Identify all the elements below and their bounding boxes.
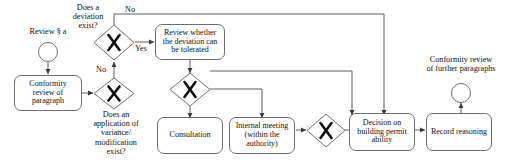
flow-label-no-top: No [125,6,135,14]
task-label: Decision on building permit ability [357,119,407,146]
task-label: Review whether the deviation can be tole… [163,29,218,56]
task-decision-on-building-permit-ability[interactable]: Decision on building permit ability [349,113,415,151]
flow-label-yes: Yes [135,45,147,53]
task-label: Conformity review of paragraph [29,80,66,107]
task-record-reasoning[interactable]: Record reasoning [426,113,492,151]
gateway-split-consultation-meeting[interactable] [169,72,211,107]
gateway-application-variance-exists-label: Does an application of variance/ modific… [85,110,147,156]
task-label: Record reasoning [431,128,487,137]
task-consultation[interactable]: Consultation [157,117,223,154]
task-review-whether-deviation-tolerated[interactable]: Review whether the deviation can be tole… [155,24,225,60]
gateway-deviation-exists-label: Does a deviation exist? [62,3,114,31]
task-label: Internal meeting (within the authority) [236,122,289,149]
start-event[interactable] [38,42,58,62]
end-event[interactable] [451,83,471,103]
task-conformity-review-of-paragraph[interactable]: Conformity review of paragraph [14,75,82,111]
task-internal-meeting[interactable]: Internal meeting (within the authority) [229,117,295,154]
end-event-label: Conformity review of further paragraphs [409,55,512,73]
gateway-application-variance-exists[interactable] [93,77,135,110]
flowchart-canvas: Review § a Conformity review of paragrap… [0,0,512,167]
task-label: Consultation [170,131,211,140]
flow-label-no-left: No [96,66,106,74]
gateway-merge-before-decision[interactable] [306,113,346,148]
